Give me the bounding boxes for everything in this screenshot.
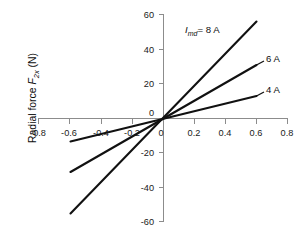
series-label-6a: 6 A xyxy=(266,53,280,64)
x-tick-label: -0.8 xyxy=(30,128,46,138)
y-tick-label: 40 xyxy=(144,45,154,55)
annotation-leaders xyxy=(257,61,265,96)
y-tick-label: 20 xyxy=(144,79,154,89)
x-tick-label: 0.6 xyxy=(250,128,263,138)
y-tick-label: 60 xyxy=(144,10,154,20)
series-label-8a-suffix: = 8 A xyxy=(197,24,220,35)
series-label-8a: Imd= 8 A xyxy=(185,24,220,37)
chart-figure: Radial force F2x (N) xyxy=(0,0,304,242)
x-tick-label: 0 xyxy=(158,128,163,138)
y-tick-label: -40 xyxy=(141,183,154,193)
leader-line-4a xyxy=(257,92,265,96)
y-tick-label: -20 xyxy=(141,148,154,158)
x-tick-label: 0.4 xyxy=(219,128,232,138)
y-tick-label: 0 xyxy=(149,108,154,118)
y-tick-label: -60 xyxy=(141,217,154,227)
plot-area: -0.8 -0.6 -0.4 -0.2 0 0.2 0.4 0.6 0.8 60… xyxy=(0,0,304,242)
x-tick-label: 0.2 xyxy=(188,128,201,138)
x-tick-label: 0.8 xyxy=(281,128,294,138)
x-tick-label: -0.6 xyxy=(61,128,77,138)
series-label-4a: 4 A xyxy=(266,84,280,95)
x-axis-tick-labels: -0.8 -0.6 -0.4 -0.2 0 0.2 0.4 0.6 0.8 xyxy=(30,128,293,138)
leader-line-6a xyxy=(257,61,265,65)
